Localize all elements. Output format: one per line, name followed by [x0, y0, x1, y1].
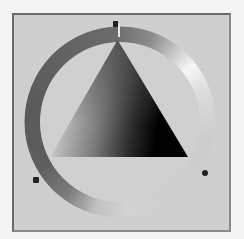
hue-marker-bottom: ·: [118, 223, 126, 231]
hue-marker-lower-right-dot: [202, 170, 208, 176]
hue-indicator-line: [118, 24, 120, 37]
hue-marker-upper-right: ·: [198, 67, 206, 75]
hue-marker-lower-left-dot: [33, 177, 39, 183]
hue-marker-upper-left: ·: [27, 74, 35, 82]
